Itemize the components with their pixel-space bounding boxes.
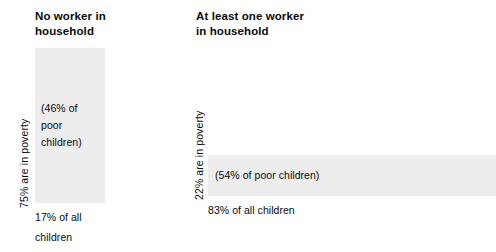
panel-heading-at-least-one-worker: At least one worker in household	[196, 9, 376, 39]
poverty-rate-axis-label-at-least-one-worker: 22% are in poverty	[194, 111, 205, 200]
panel-no-worker: No worker in household 75% are in povert…	[0, 0, 180, 252]
panel-heading-no-worker: No worker in household	[35, 9, 175, 39]
bar-caption-no-worker: (46% of poor children)	[41, 100, 107, 151]
bar-caption-at-least-one-worker: (54% of poor children)	[215, 167, 465, 184]
share-of-all-children-at-least-one-worker: 83% of all children	[208, 200, 468, 220]
poverty-rate-axis-label-no-worker: 75% are in poverty	[19, 119, 30, 208]
share-of-all-children-no-worker: 17% of all children	[35, 207, 155, 247]
